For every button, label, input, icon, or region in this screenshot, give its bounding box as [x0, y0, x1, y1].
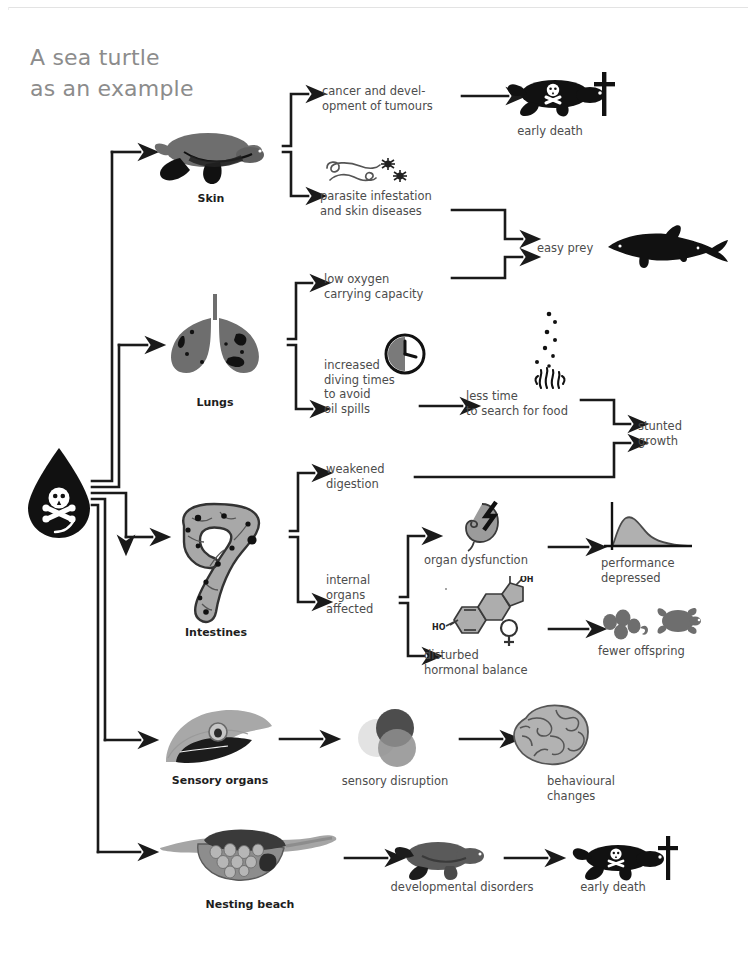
effect-label-organ-dysfunction: organ dysfunction — [424, 553, 554, 568]
organ-label-nesting-beach: Nesting beach — [160, 898, 340, 913]
organ-label-intestines: Intestines — [156, 626, 276, 641]
effect-diving-line4: oil spills — [324, 402, 444, 417]
less-time-line1: less time — [466, 389, 586, 404]
turtle-head-icon — [160, 706, 278, 772]
effect-cancer-line1: cancer and devel- — [322, 84, 462, 99]
outcome-label-easy-prey: easy prey — [537, 241, 593, 256]
effect-label-cancer: cancer and devel- opment of tumours — [322, 84, 462, 113]
weakened-line1: weakened — [326, 462, 436, 477]
weakened-line2: digestion — [326, 477, 436, 492]
nest-with-eggs-icon — [160, 826, 340, 892]
overlapping-circles-icon — [355, 706, 429, 774]
behavioural-line2: changes — [547, 789, 657, 804]
organ-label-sensory-organs: Sensory organs — [150, 774, 290, 789]
effect-parasites-line2: and skin diseases — [320, 204, 470, 219]
brain-icon — [508, 702, 594, 772]
distribution-curve-icon — [600, 500, 696, 556]
performance-line1: performance — [601, 556, 721, 571]
effect-label-hormonal-balance: disturbed hormonal balance — [424, 648, 564, 677]
effect-label-low-oxygen: low oxygen carrying capacity — [324, 272, 464, 301]
page-title-line2: as an example — [30, 73, 330, 104]
outcome-label-fewer-offspring: fewer offspring — [598, 644, 718, 659]
intestines-icon — [162, 500, 272, 630]
outcome-label-developmental-disorders: developmental disorders — [372, 880, 552, 895]
page-title-line1: A sea turtle — [30, 42, 330, 73]
performance-line2: depressed — [601, 571, 721, 586]
effect-diving-line3: to avoid — [324, 387, 444, 402]
internal-line1: internal — [326, 573, 416, 588]
outcome-label-performance-depressed: performance depressed — [601, 556, 721, 585]
page-title: A sea turtle as an example — [30, 42, 330, 104]
internal-line2: organs — [326, 588, 416, 603]
effect-low-oxygen-line1: low oxygen — [324, 272, 464, 287]
effect-cancer-line2: opment of tumours — [322, 99, 462, 114]
outcome-label-sensory-disruption: sensory disruption — [330, 774, 460, 789]
food-particles-icon — [527, 310, 573, 396]
effect-parasites-line1: parasite infestation — [320, 189, 470, 204]
eggs-and-turtle-icon — [600, 604, 704, 644]
hormonal-line2: hormonal balance — [424, 663, 564, 678]
effect-label-diving-times: increased diving times to avoid oil spil… — [324, 358, 444, 416]
svg-text:HO: HO — [432, 623, 446, 632]
stunted-line2: growth — [638, 434, 728, 449]
internal-line3: affected — [326, 602, 416, 617]
organ-label-skin: Skin — [150, 192, 272, 207]
effect-label-internal-organs: internal organs affected — [326, 573, 416, 617]
outcome-label-early-death-1: early death — [495, 124, 605, 139]
page-corner-mark — [8, 7, 9, 10]
page-top-rule — [8, 7, 748, 8]
organ-label-lungs: Lungs — [162, 396, 268, 411]
infographic-canvas: A sea turtle as an example — [0, 0, 756, 957]
stunted-line1: stunted — [638, 419, 728, 434]
less-time-line2: to search for food — [466, 404, 586, 419]
lungs-icon — [162, 292, 268, 382]
outcome-label-stunted-growth: stunted growth — [638, 419, 728, 448]
effect-label-weakened-digestion: weakened digestion — [326, 462, 436, 491]
effect-diving-line1: increased — [324, 358, 444, 373]
effect-label-parasites: parasite infestation and skin diseases — [320, 189, 470, 218]
effect-low-oxygen-line2: carrying capacity — [324, 287, 464, 302]
estrogen-molecule-icon: OH HO — [428, 576, 538, 652]
hormonal-line1: disturbed — [424, 648, 564, 663]
behavioural-line1: behavioural — [547, 774, 657, 789]
kidney-icon — [452, 500, 510, 556]
dead-turtle-icon-1 — [505, 70, 617, 126]
outcome-label-behavioural-changes: behavioural changes — [547, 774, 657, 803]
oil-drop-icon — [22, 446, 96, 544]
sea-turtle-skin-icon — [150, 128, 272, 190]
shark-icon — [600, 222, 730, 274]
effect-diving-line2: diving times — [324, 373, 444, 388]
svg-text:OH: OH — [520, 576, 534, 584]
outcome-label-early-death-2: early death — [558, 880, 668, 895]
outcome-label-less-time-food: less time to search for food — [466, 389, 586, 418]
